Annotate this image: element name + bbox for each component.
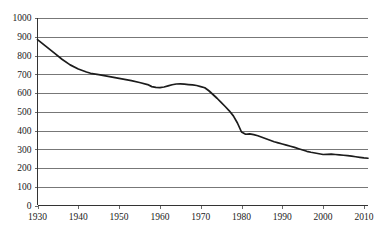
y-tick-label-300: 300 [17,145,32,155]
x-tick-label-1950: 1950 [110,212,129,222]
y-tick-label-900: 900 [17,32,32,42]
y-tick-label-800: 800 [17,51,32,61]
x-tick-label-1960: 1960 [150,212,169,222]
y-tick-label-700: 700 [17,70,32,80]
chart-canvas: 01002003004005006007008009001000 1930194… [0,0,383,240]
x-tick-label-1980: 1980 [232,212,251,222]
y-tick-label-400: 400 [17,126,32,136]
y-tick-label-0: 0 [27,201,32,211]
x-tick-label-1930: 1930 [28,212,47,222]
gridlines [38,19,369,188]
y-tick-label-500: 500 [17,107,32,117]
y-tick-labels: 01002003004005006007008009001000 [13,13,32,211]
x-tick-label-1990: 1990 [273,212,292,222]
x-tick-label-2000: 2000 [314,212,333,222]
y-tick-label-200: 200 [17,163,32,173]
y-tick-label-100: 100 [17,182,32,192]
x-tick-label-1940: 1940 [69,212,88,222]
y-tick-label-1000: 1000 [13,13,32,23]
y-tick-label-600: 600 [17,88,32,98]
line-chart: 01002003004005006007008009001000 1930194… [0,0,383,240]
x-tick-labels: 193019401950196019701980199020002010 [28,212,374,222]
data-series-line [38,40,369,159]
x-tick-label-1970: 1970 [191,212,210,222]
x-tick-label-2010: 2010 [354,212,373,222]
